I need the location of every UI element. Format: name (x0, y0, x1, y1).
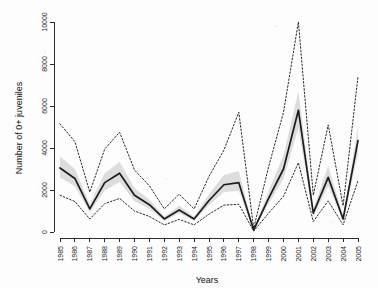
fitted-mean-line (60, 110, 358, 230)
y-tick-label: 8000 (41, 56, 48, 72)
x-tick-label: 2002 (310, 246, 317, 262)
y-tick-label: 2000 (41, 182, 48, 198)
x-tick-label: 1998 (250, 246, 257, 262)
x-axis-title: Years (196, 275, 219, 285)
x-tick-label: 1990 (131, 246, 138, 262)
x-tick-label: 1992 (161, 246, 168, 262)
x-tick-label: 1993 (176, 246, 183, 262)
x-tick-label: 1997 (235, 246, 242, 262)
x-tick-label: 1987 (86, 246, 93, 262)
y-tick-label: 6000 (41, 98, 48, 114)
x-tick-label: 2000 (280, 246, 287, 262)
x-tick-label: 1999 (265, 246, 272, 262)
x-tick-label: 1996 (220, 246, 227, 262)
y-tick-label: 0 (41, 230, 48, 234)
x-tick-label: 1988 (101, 246, 108, 262)
y-tick-label: 10000 (41, 12, 48, 32)
x-tick-label: 2005 (355, 246, 362, 262)
x-tick-label: 1989 (116, 246, 123, 262)
x-tick-label: 1995 (206, 246, 213, 262)
chart-canvas: 0200040006000800010000 19851986198719881… (0, 0, 378, 288)
x-axis: 1985198619871988198919901991199219931994… (57, 238, 362, 262)
y-tick-label: 4000 (41, 140, 48, 156)
x-tick-label: 2001 (295, 246, 302, 262)
y-axis-title: Number of 0+ juveniles (14, 81, 24, 174)
x-tick-label: 2003 (325, 246, 332, 262)
x-tick-label: 1986 (71, 246, 78, 262)
x-tick-label: 1994 (191, 246, 198, 262)
x-tick-label: 1991 (146, 246, 153, 262)
line-chart: 0200040006000800010000 19851986198719881… (0, 0, 378, 288)
x-tick-label: 1985 (57, 246, 64, 262)
y-axis: 0200040006000800010000 (41, 12, 54, 234)
x-tick-label: 2004 (340, 246, 347, 262)
fitted-line-group (60, 110, 358, 230)
